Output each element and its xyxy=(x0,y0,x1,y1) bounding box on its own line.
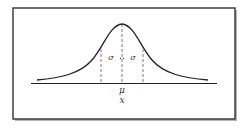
sigma-right-label: σ xyxy=(124,53,142,63)
x-axis-label: x xyxy=(112,95,132,105)
normal-distribution-diagram: σ σ μ x xyxy=(0,0,247,128)
mean-label: μ xyxy=(112,85,132,95)
diagram-canvas xyxy=(0,0,247,128)
sigma-left-label: σ xyxy=(102,53,120,63)
